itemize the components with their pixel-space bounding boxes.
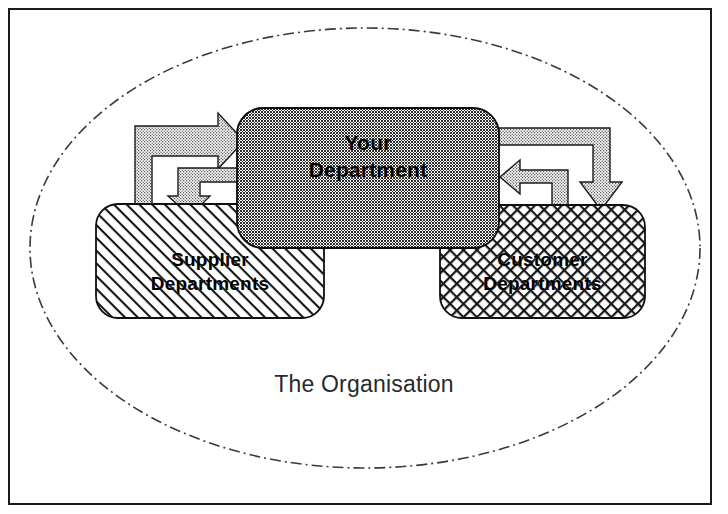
diagram-svg xyxy=(0,0,728,514)
node-your-department[interactable] xyxy=(237,108,499,248)
diagram-canvas: Your Department Supplier Departments Cus… xyxy=(0,0,728,514)
